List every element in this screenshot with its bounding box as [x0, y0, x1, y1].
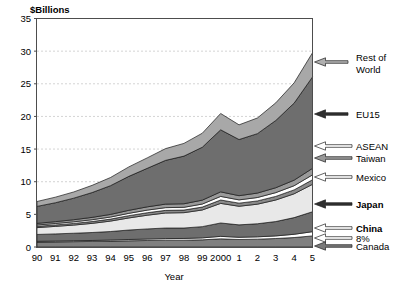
x-tick-label: 96	[142, 252, 153, 263]
x-tick-label: 1	[236, 252, 241, 263]
x-tick-label: 2000	[210, 252, 231, 263]
callout-arrow-rest-of	[315, 58, 349, 66]
y-tick-label: 30	[20, 46, 31, 57]
y-tick-label: 10	[20, 176, 31, 187]
callout-label-mexico: Mexico	[356, 172, 386, 183]
y-tick-label: 35	[20, 13, 31, 24]
chart-canvas: $Billions 05101520253035 909192939495969…	[0, 0, 396, 287]
callout-arrow-taiwan	[315, 154, 353, 162]
callout-label-taiwan: Taiwan	[356, 153, 386, 164]
callout-arrow-eu15	[315, 110, 349, 118]
y-tick-label: 15	[20, 144, 31, 155]
x-axis-ticks: 90919293949596979899200012345	[32, 252, 315, 263]
x-tick-label: 95	[124, 252, 135, 263]
callout-label-japan: Japan	[356, 199, 384, 210]
y-axis-title: $Billions	[30, 4, 70, 15]
x-tick-label: 91	[50, 252, 61, 263]
series-callouts: Rest ofWorldEU15ASEANTaiwanMexicoJapanCh…	[315, 52, 390, 252]
area-bands	[37, 53, 313, 247]
y-tick-label: 0	[26, 242, 31, 253]
x-tick-label: 93	[87, 252, 98, 263]
callout-arrow-8-	[315, 234, 353, 242]
x-tick-label: 98	[179, 252, 190, 263]
x-tick-label: 97	[160, 252, 171, 263]
callout-arrow-mexico	[315, 173, 353, 181]
callout-label-canada: Canada	[356, 241, 390, 252]
x-axis-title: Year	[164, 271, 183, 282]
y-tick-label: 5	[26, 209, 31, 220]
callout-arrow-asean	[315, 142, 353, 150]
y-tick-label: 25	[20, 78, 31, 89]
callout-arrow-china	[315, 224, 353, 232]
callout-arrow-japan	[315, 200, 353, 208]
callout-label-eu15: EU15	[356, 109, 380, 120]
y-tick-label: 20	[20, 111, 31, 122]
stacked-area-chart: $Billions 05101520253035 909192939495969…	[0, 0, 396, 287]
x-tick-label: 2	[255, 252, 260, 263]
callout-label-rest-of: Rest of	[356, 52, 386, 63]
x-tick-label: 5	[310, 252, 315, 263]
x-tick-label: 92	[68, 252, 79, 263]
y-axis-ticks: 05101520253035	[20, 13, 37, 253]
x-tick-label: 94	[105, 252, 116, 263]
x-tick-label: 3	[273, 252, 278, 263]
callout-arrow-canada	[315, 242, 353, 250]
callout-label-rest-of-line2: World	[356, 64, 381, 75]
x-tick-label: 90	[32, 252, 43, 263]
callout-label-asean: ASEAN	[356, 141, 388, 152]
x-tick-label: 99	[197, 252, 208, 263]
x-tick-label: 4	[291, 252, 296, 263]
